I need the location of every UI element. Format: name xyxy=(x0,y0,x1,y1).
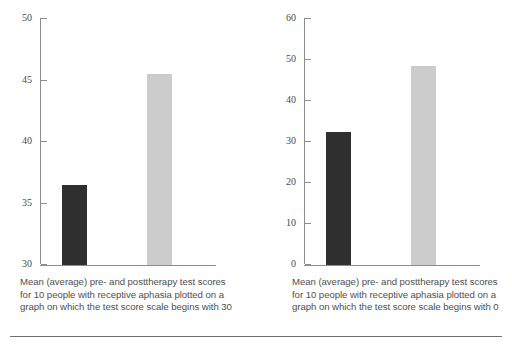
tick-label: 30 xyxy=(22,259,32,269)
plot-area-right: 0102030405060 xyxy=(304,18,484,266)
bottom-divider xyxy=(10,336,502,337)
caption-right: Mean (average) pre- and posttherapy test… xyxy=(292,276,504,314)
tick-label: 10 xyxy=(286,218,296,228)
tick-label: 0 xyxy=(291,259,296,269)
y-tick-10: 10 xyxy=(304,223,305,224)
bar-pretherapy xyxy=(62,185,87,265)
tick-mark xyxy=(305,18,311,19)
y-tick-40: 40 xyxy=(40,141,41,142)
figure-page: 3035404550 Mean (average) pre- and postt… xyxy=(0,0,512,344)
y-tick-60: 60 xyxy=(304,18,305,19)
tick-label: 50 xyxy=(286,54,296,64)
tick-label: 35 xyxy=(22,198,32,208)
y-tick-50: 50 xyxy=(304,59,305,60)
tick-mark xyxy=(305,59,311,60)
tick-mark xyxy=(305,182,311,183)
tick-label: 40 xyxy=(22,136,32,146)
tick-mark xyxy=(41,203,47,204)
chart-panel-left: 3035404550 Mean (average) pre- and postt… xyxy=(0,0,256,344)
caption-left: Mean (average) pre- and posttherapy test… xyxy=(20,276,234,314)
tick-mark xyxy=(305,141,311,142)
tick-mark xyxy=(305,264,311,265)
bar-pretherapy xyxy=(326,132,351,265)
tick-label: 30 xyxy=(286,136,296,146)
y-tick-20: 20 xyxy=(304,182,305,183)
y-tick-0: 0 xyxy=(304,264,305,265)
tick-label: 50 xyxy=(22,13,32,23)
bar-posttherapy xyxy=(147,74,172,265)
tick-label: 60 xyxy=(286,13,296,23)
y-tick-30: 30 xyxy=(304,141,305,142)
bar-posttherapy xyxy=(411,66,436,265)
y-tick-40: 40 xyxy=(304,100,305,101)
y-tick-30: 30 xyxy=(40,264,41,265)
y-tick-45: 45 xyxy=(40,80,41,81)
y-tick-35: 35 xyxy=(40,203,41,204)
tick-mark xyxy=(41,141,47,142)
tick-label: 20 xyxy=(286,177,296,187)
tick-mark xyxy=(41,264,47,265)
tick-mark xyxy=(41,80,47,81)
tick-mark xyxy=(305,223,311,224)
x-axis-right xyxy=(304,265,480,266)
x-axis-left xyxy=(40,265,216,266)
y-tick-50: 50 xyxy=(40,18,41,19)
chart-panel-right: 0102030405060 Mean (average) pre- and po… xyxy=(256,0,512,344)
tick-label: 45 xyxy=(22,75,32,85)
tick-label: 40 xyxy=(286,95,296,105)
tick-mark xyxy=(41,18,47,19)
plot-area-left: 3035404550 xyxy=(40,18,220,266)
tick-mark xyxy=(305,100,311,101)
